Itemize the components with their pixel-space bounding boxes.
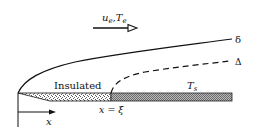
xi-position-label: x = ξ [99, 104, 124, 115]
velocity-boundary-layer-curve [18, 39, 232, 93]
thermal-boundary-layer-curve [111, 61, 230, 93]
freestream-label: ue,Te [102, 12, 127, 25]
insulated-label: Insulated [54, 80, 102, 91]
delta-label: δ [235, 34, 241, 45]
insulated-plate-section [18, 93, 111, 101]
x-axis-arrow [18, 110, 56, 115]
Delta-label: Δ [235, 57, 242, 67]
x-axis-label: x [46, 116, 52, 127]
boundary-layer-diagram: ue,Te δ Δ Insulated Ts x = ξ x [0, 0, 255, 136]
heated-plate-section [111, 93, 232, 101]
freestream-arrow [93, 25, 137, 32]
surface-temperature-label: Ts [187, 80, 198, 93]
